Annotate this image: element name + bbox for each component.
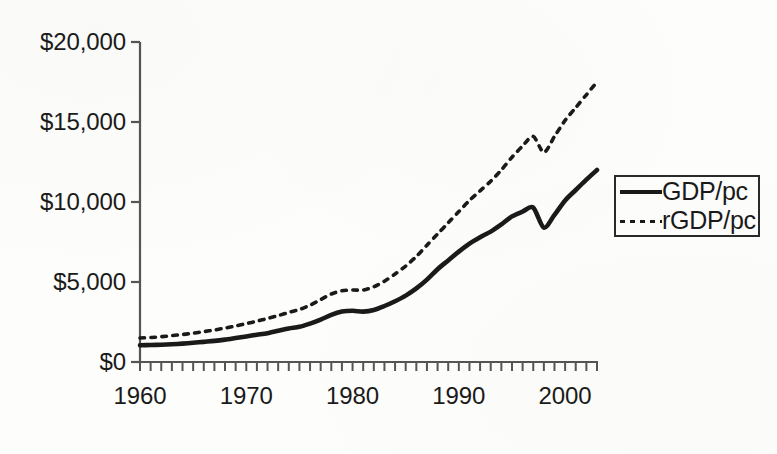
chart-screenshot: $0$5,000$10,000$15,000$20,000 1960197019… <box>0 0 777 454</box>
x-axis-tick-label: 2000 <box>539 382 592 410</box>
chart-legend: GDP/pc rGDP/pc <box>614 175 760 237</box>
chart-series <box>140 82 597 345</box>
legend-entry-rgdp-pc: rGDP/pc <box>616 206 758 235</box>
x-axis-tick-label: 1970 <box>220 382 273 410</box>
legend-label-gdp-pc: GDP/pc <box>662 179 748 204</box>
legend-label-rgdp-pc: rGDP/pc <box>662 208 756 233</box>
y-axis-tick-label: $15,000 <box>40 108 126 136</box>
y-axis-tick-label: $0 <box>100 348 127 376</box>
dotted-line-swatch <box>616 206 662 235</box>
y-axis-tick-label: $20,000 <box>40 28 126 56</box>
solid-line-swatch <box>616 177 662 206</box>
series-line-gdp-pc <box>140 170 597 345</box>
x-axis-tick-label: 1990 <box>432 382 485 410</box>
y-axis-tick-label: $10,000 <box>40 188 126 216</box>
legend-entry-gdp-pc: GDP/pc <box>616 177 758 206</box>
y-axis-tick-label: $5,000 <box>53 268 126 296</box>
x-axis-tick-label: 1980 <box>326 382 379 410</box>
x-axis-tick-label: 1960 <box>114 382 167 410</box>
